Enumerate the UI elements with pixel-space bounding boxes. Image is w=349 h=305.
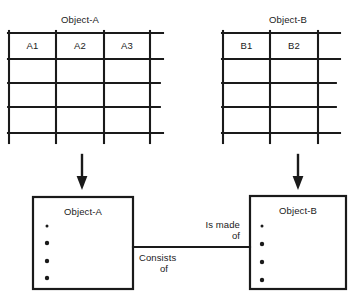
arrow-b: [293, 155, 304, 190]
entity-object-b-bullets: [260, 225, 264, 283]
table-object-a-column-header-0: A1: [9, 40, 56, 51]
entity-object-a-bullets: [45, 225, 49, 281]
table-object-b-title: Object-B: [248, 14, 328, 25]
diagram-canvas: Object-A A1 A2 A3 Object-B B1 B2 Object-…: [0, 0, 349, 305]
relationship-label-lower-line1: Consists: [139, 252, 219, 263]
relationship-label-upper-line1: Is made: [170, 219, 240, 230]
arrow-a: [77, 155, 88, 190]
entity-object-b-title: Object-B: [258, 205, 338, 216]
table-object-a-column-header-2: A3: [104, 40, 150, 51]
relationship-label-upper-line2: of: [170, 230, 240, 241]
table-object-b-column-header-0: B1: [223, 40, 270, 51]
table-object-a-column-header-1: A2: [56, 40, 104, 51]
relationship-label-lower-line2: of: [139, 263, 189, 274]
table-object-a-title: Object-A: [40, 14, 120, 25]
entity-object-a-title: Object-A: [43, 206, 123, 217]
table-object-b-column-header-1: B2: [270, 40, 318, 51]
